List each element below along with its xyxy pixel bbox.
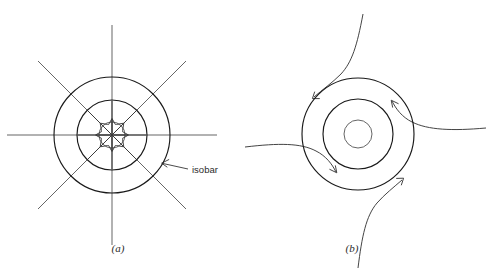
inflow-arrow-group	[78, 101, 146, 169]
panel-a: isobar (a)	[7, 25, 218, 255]
panel-b-core-circle	[344, 120, 372, 148]
panel-b: (b)	[245, 14, 486, 268]
spiral-from-bottom	[358, 178, 404, 268]
panel-b-middle-isobar	[323, 99, 393, 169]
inflow-arrow-e	[96, 132, 147, 139]
pressure-system-diagram: isobar (a)	[0, 0, 489, 270]
spiral-from-top	[312, 14, 363, 99]
isobar-leader-line	[163, 164, 188, 170]
panel-a-label: (a)	[112, 242, 125, 255]
inflow-arrow-s	[109, 119, 116, 170]
isobar-annotation: isobar	[162, 160, 218, 175]
spiral-group	[245, 14, 486, 268]
isobar-label: isobar	[192, 164, 218, 175]
spiral-from-left	[245, 144, 337, 172]
panel-b-label: (b)	[346, 242, 359, 255]
panel-b-outer-isobar	[302, 78, 414, 190]
